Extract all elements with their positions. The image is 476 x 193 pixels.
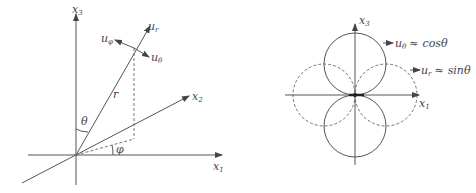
uphi-arrow xyxy=(115,40,134,48)
radiation-pattern-diagram: x3 x1 uθ≈cosθ ur≈sinθ xyxy=(285,14,471,165)
origin-dot xyxy=(353,93,357,97)
x2-axis xyxy=(22,96,189,183)
utheta-label: uθ xyxy=(151,51,163,65)
x2-axis-label: x2 xyxy=(192,90,203,104)
legend-item-sin: ur≈sinθ xyxy=(410,64,471,78)
x1-axis-label: x1 xyxy=(213,160,224,174)
legend-label-cos: uθ≈cosθ xyxy=(395,37,448,51)
x1-axis-label-right: x1 xyxy=(419,97,430,111)
utheta-arrow xyxy=(134,48,149,57)
radius-label: r xyxy=(113,88,119,101)
theta-label: θ xyxy=(81,115,88,128)
theta-arc xyxy=(76,129,88,132)
x3-axis-label-right: x3 xyxy=(359,14,370,28)
figure: x3 x1 x2 r ur uφ uθ θ φ x3 xyxy=(0,0,476,193)
projection-horizontal xyxy=(76,139,134,155)
legend-label-sin: ur≈sinθ xyxy=(421,64,471,78)
phi-label: φ xyxy=(116,143,124,156)
ur-label: ur xyxy=(148,20,159,34)
uphi-label: uφ xyxy=(101,32,113,46)
phi-arc xyxy=(112,145,113,155)
x3-axis-label: x3 xyxy=(72,3,83,17)
spherical-coordinates-diagram: x3 x1 x2 r ur uφ uθ θ φ xyxy=(22,3,224,185)
legend-item-cos: uθ≈cosθ xyxy=(383,37,448,51)
